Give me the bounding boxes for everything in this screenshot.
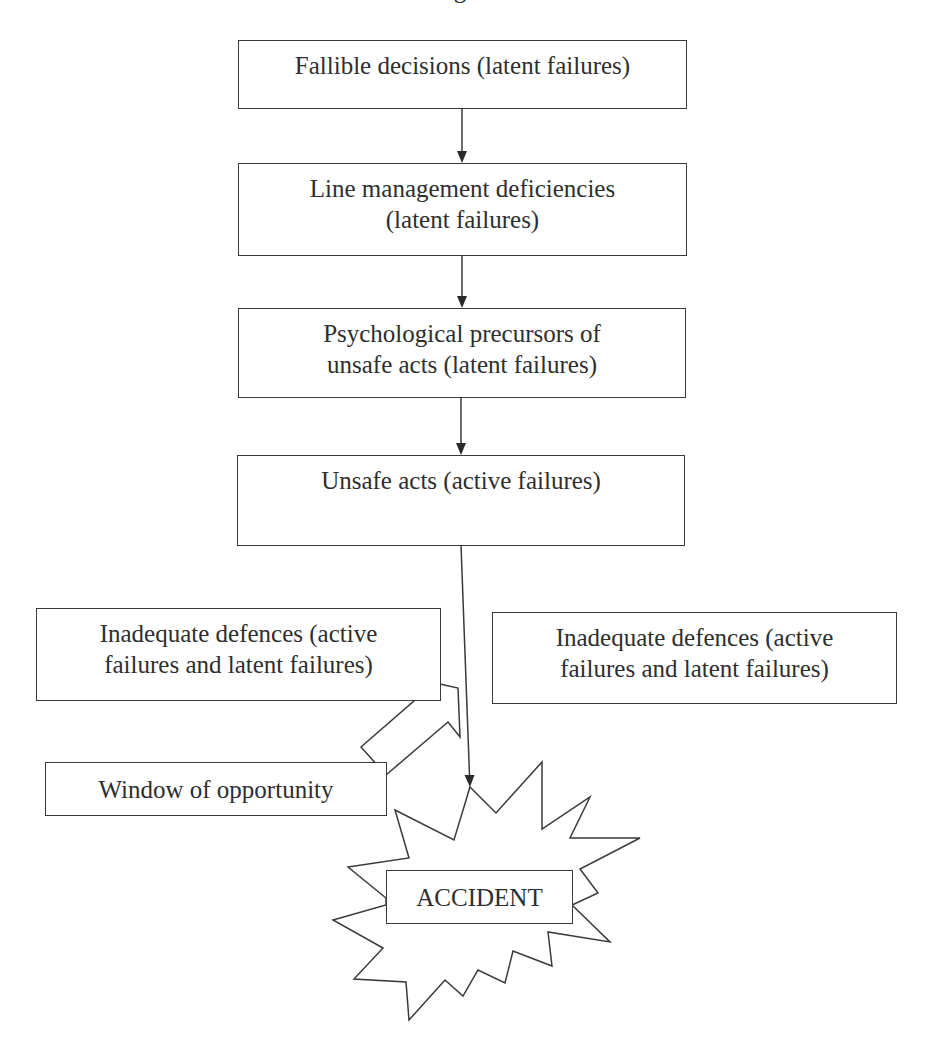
arrow-psych-to-unsafe (456, 397, 466, 455)
arrow-fallible-to-line (457, 108, 467, 163)
box-window-of-opportunity: Window of opportunity (45, 762, 387, 816)
box-line-management-deficiencies: Line management deficiencies (latent fai… (238, 163, 687, 256)
box-inadequate-defences-right: Inadequate defences (active failures and… (492, 612, 897, 704)
box-label-line: Unsafe acts (active failures) (321, 465, 601, 496)
box-fallible-decisions: Fallible decisions (latent failures) (238, 40, 687, 109)
cropped-figure-caption: Figure (338, 0, 593, 5)
arrow-unsafe-to-accident (461, 545, 475, 787)
box-unsafe-acts: Unsafe acts (active failures) (237, 455, 685, 546)
box-label-line: failures and latent failures) (560, 653, 829, 684)
box-label-line: unsafe acts (latent failures) (327, 349, 597, 380)
box-psychological-precursors: Psychological precursors of unsafe acts … (238, 308, 686, 398)
arrow-line-to-psych (457, 255, 467, 308)
box-label-line: (latent failures) (386, 204, 539, 235)
box-label-line: Psychological precursors of (323, 318, 601, 349)
box-label-line: failures and latent failures) (104, 649, 373, 680)
box-label-line: Window of opportunity (98, 774, 333, 805)
box-label-line: Fallible decisions (latent failures) (295, 50, 630, 81)
box-label-line: Line management deficiencies (310, 173, 615, 204)
box-label-line: Inadequate defences (active (100, 618, 378, 649)
box-inadequate-defences-left: Inadequate defences (active failures and… (36, 608, 441, 701)
box-label-line: Inadequate defences (active (556, 622, 834, 653)
accident-causation-diagram: Figure Fallible decisions (latent failur… (0, 0, 931, 1060)
box-accident: ACCIDENT (386, 870, 573, 924)
accident-label: ACCIDENT (416, 882, 542, 913)
